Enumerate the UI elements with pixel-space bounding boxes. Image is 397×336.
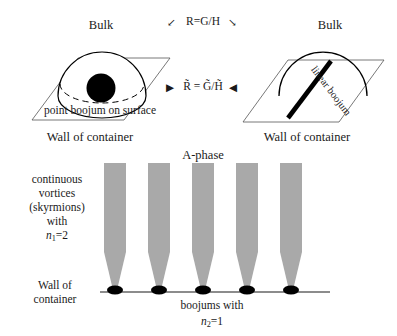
bottom-relation-formula: R̃ = G̃/H̃ <box>183 80 223 94</box>
right-panel-graphics <box>243 52 384 122</box>
vortices-caption-line: with <box>13 214 101 228</box>
top-relation-arrow-left: ↙ <box>167 17 176 29</box>
vortices-caption-line: vortices <box>13 186 101 200</box>
vortices-caption-line: (skyrmions) <box>13 200 101 214</box>
vortex-column-body <box>236 163 258 288</box>
bottom-wall-label: Wall of container <box>12 278 98 306</box>
bottom-relation-arrow-right: ◀ <box>229 82 237 94</box>
left-bulk-label: Bulk <box>89 18 113 33</box>
right-bulk-label: Bulk <box>318 18 342 33</box>
boojum-blob <box>283 285 299 294</box>
right-wall-label: Wall of container <box>264 130 350 145</box>
vortex-column-body <box>192 163 214 288</box>
bottom-relation-arrow-left: ▶ <box>166 82 174 94</box>
vortex-column-body <box>280 163 302 288</box>
vortex-column-body <box>148 163 170 288</box>
vortices-caption: continuous vortices (skyrmions) with n1=… <box>13 172 101 244</box>
boojums-index-value: =1 <box>211 315 223 327</box>
bottom-panel-graphics <box>100 163 330 295</box>
boojum-blob <box>239 285 255 294</box>
vortex-column <box>192 163 214 295</box>
vortices-index: n1=2 <box>13 228 101 244</box>
left-wall-label: Wall of container <box>47 130 133 145</box>
point-boojum-dot <box>87 74 116 103</box>
vortex-column-body <box>104 163 126 288</box>
boojums-index: n2=1 <box>201 315 223 330</box>
vortex-column <box>148 163 170 295</box>
vortices-index-value: =2 <box>56 229 68 241</box>
vortex-column <box>280 163 302 295</box>
vortex-column <box>236 163 258 295</box>
top-relation-arrow-right: ↘ <box>228 17 237 29</box>
top-relation-formula: R=G/H <box>186 15 220 29</box>
bottom-wall-label-line: Wall of <box>12 278 98 292</box>
boojum-blob <box>195 285 211 294</box>
a-phase-label: A-phase <box>182 148 224 163</box>
boojums-caption: boojums with <box>181 299 244 313</box>
boojum-blob <box>151 285 167 294</box>
bottom-wall-label-line: container <box>12 292 98 306</box>
vortices-caption-line: continuous <box>13 172 101 186</box>
vortex-column <box>104 163 126 295</box>
boojum-figure: Bulk point boojum on surface Wall of con… <box>0 0 397 336</box>
point-boojum-caption: point boojum on surface <box>44 104 156 118</box>
boojum-blob <box>107 285 123 294</box>
